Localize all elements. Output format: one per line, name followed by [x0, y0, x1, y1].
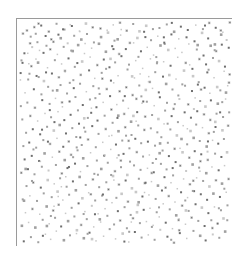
scatter-plot-canvas [17, 19, 233, 247]
plot-frame [16, 18, 232, 246]
figure-container [0, 0, 246, 261]
